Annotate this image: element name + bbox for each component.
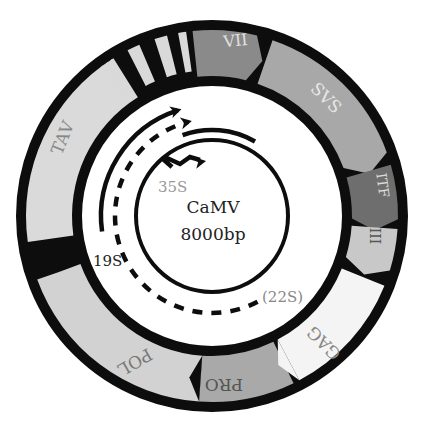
camv-genome-map: CaMV 8000bp 35S 19S (22S) VII SVS ITF II… [0,0,424,431]
promoter-zigzag [164,157,200,167]
center-size-label: 8000bp [180,224,245,244]
gene-label-vii: VII [221,30,248,52]
transcript-19s-label: 19S [93,252,122,270]
gene-label-pro: PRO [205,375,243,395]
center-name-label: CaMV [187,197,241,217]
gene-label-iii: III [367,228,383,245]
transcript-35s-label: 35S [158,178,187,196]
gene-label-itf: ITF [373,172,392,199]
arrowhead-icon [180,115,193,129]
transcript-22s-label: (22S) [262,288,303,306]
